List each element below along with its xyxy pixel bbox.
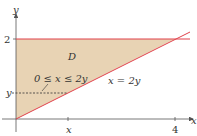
x-tick-x: x bbox=[66, 124, 72, 135]
region-label: D bbox=[67, 51, 76, 62]
x-tick-4: 4 bbox=[172, 124, 178, 135]
x-axis-label: x bbox=[191, 115, 197, 126]
y-tick-y: y bbox=[5, 87, 12, 98]
inequality-label: 0 ≤ x ≤ 2y bbox=[34, 73, 88, 84]
region-diagram: y x 2 y x 4 D 0 ≤ x ≤ 2y x = 2y bbox=[0, 0, 197, 136]
line-equation-label: x = 2y bbox=[108, 75, 141, 86]
y-axis-label: y bbox=[12, 4, 19, 15]
y-tick-2: 2 bbox=[4, 34, 10, 45]
